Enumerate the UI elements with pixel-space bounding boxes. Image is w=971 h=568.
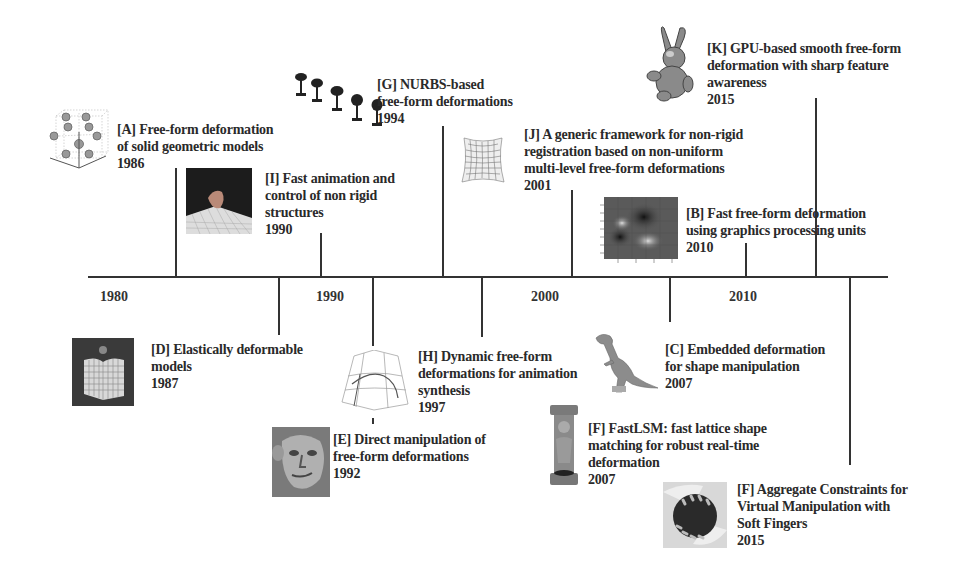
entry-C-title-line-1: [C] Embedded deformation xyxy=(665,341,825,358)
deformed-cube-on-grid-icon xyxy=(186,168,252,234)
soft-fingers-grasp-icon xyxy=(663,482,727,548)
entry-D: [D] Elastically deformable models 1987 xyxy=(151,341,303,392)
connector-C xyxy=(669,277,671,322)
entry-F1: [F] FastLSM: fast lattice shape matching… xyxy=(588,420,767,488)
connector-I xyxy=(320,233,322,277)
entry-E-year: 1992 xyxy=(333,465,486,482)
entry-D-title-line-2: models xyxy=(151,358,303,375)
entry-D-title-line-1: [D] Elastically deformable xyxy=(151,341,303,358)
face-sculpture-icon xyxy=(272,427,330,497)
entry-A-year: 1986 xyxy=(117,155,273,172)
entry-B-year: 2010 xyxy=(686,239,866,256)
bunny-icon xyxy=(644,24,700,104)
connector-F2 xyxy=(849,277,851,465)
wireframe-lattice-icon xyxy=(340,350,410,412)
statue-icon xyxy=(548,405,580,487)
entry-K-title-line-3: awareness xyxy=(707,74,901,91)
entry-I-title-line-2: control of non rigid xyxy=(265,187,395,204)
heatmap-icon xyxy=(598,195,680,267)
entry-J-title-line-2: registration based on non-uniform xyxy=(524,143,743,160)
entry-J-title-line-3: multi-level free-form deformations xyxy=(524,160,743,177)
connector-D xyxy=(278,277,280,335)
axis-label-2010: 2010 xyxy=(729,289,757,305)
entry-F2-title-line-1: [F] Aggregate Constraints for xyxy=(737,481,908,498)
entry-A-title-line-1: [A] Free-form deformation xyxy=(117,121,273,138)
entry-F1-title-line-3: deformation xyxy=(588,454,767,471)
axis-label-1980: 1980 xyxy=(100,289,128,305)
axis-label-1990: 1990 xyxy=(316,289,344,305)
entry-A: [A] Free-form deformation of solid geome… xyxy=(117,121,273,172)
entry-K: [K] GPU-based smooth free-form deformati… xyxy=(707,40,901,108)
elastic-cube-icon xyxy=(72,338,134,406)
entry-A-title-line-2: of solid geometric models xyxy=(117,138,273,155)
entry-G-title-line-1: [G] NURBS-based xyxy=(377,76,513,93)
entry-F1-title-line-2: matching for robust real-time xyxy=(588,437,767,454)
entry-K-title-line-2: deformation with sharp feature xyxy=(707,57,901,74)
entry-C-year: 2007 xyxy=(665,375,825,392)
lattice-spheres-icon xyxy=(44,108,114,180)
connector-E xyxy=(372,277,374,346)
entry-H-year: 1997 xyxy=(418,399,577,416)
entry-G: [G] NURBS-based free-form deformations 1… xyxy=(377,76,513,127)
entry-C-title-line-2: for shape manipulation xyxy=(665,358,825,375)
entry-I-title-line-3: structures xyxy=(265,204,395,221)
entry-K-year: 2015 xyxy=(707,91,901,108)
connector-E-lower xyxy=(372,418,374,424)
entry-I-year: 1990 xyxy=(265,221,395,238)
entry-F2-title-line-3: Soft Fingers xyxy=(737,515,908,532)
connector-H xyxy=(481,277,483,337)
dinosaur-icon xyxy=(594,330,660,394)
entry-H: [H] Dynamic free-form deformations for a… xyxy=(418,348,577,416)
connector-J xyxy=(571,190,573,277)
timeline-axis xyxy=(88,276,888,278)
entry-G-year: 1994 xyxy=(377,110,513,127)
entry-I-title-line-1: [I] Fast animation and xyxy=(265,170,395,187)
entry-B-title-line-2: using graphics processing units xyxy=(686,222,866,239)
entry-J-year: 2001 xyxy=(524,177,743,194)
entry-H-title-line-2: deformations for animation xyxy=(418,365,577,382)
entry-I: [I] Fast animation and control of non ri… xyxy=(265,170,395,238)
entry-E: [E] Direct manipulation of free-form def… xyxy=(333,431,486,482)
entry-F1-title-line-1: [F] FastLSM: fast lattice shape xyxy=(588,420,767,437)
goblets-icon xyxy=(292,72,388,132)
entry-E-title-line-2: free-form deformations xyxy=(333,448,486,465)
connector-G xyxy=(442,126,444,277)
entry-B-title-line-1: [B] Fast free-form deformation xyxy=(686,205,866,222)
entry-J: [J] A generic framework for non-rigid re… xyxy=(524,126,743,194)
entry-F2-year: 2015 xyxy=(737,532,908,549)
entry-D-year: 1987 xyxy=(151,375,303,392)
entry-K-title-line-1: [K] GPU-based smooth free-form xyxy=(707,40,901,57)
axis-label-2000: 2000 xyxy=(531,289,559,305)
entry-G-title-line-2: free-form deformations xyxy=(377,93,513,110)
entry-F2: [F] Aggregate Constraints for Virtual Ma… xyxy=(737,481,908,549)
entry-H-title-line-3: synthesis xyxy=(418,382,577,399)
entry-F2-title-line-2: Virtual Manipulation with xyxy=(737,498,908,515)
entry-C: [C] Embedded deformation for shape manip… xyxy=(665,341,825,392)
entry-E-title-line-1: [E] Direct manipulation of xyxy=(333,431,486,448)
entry-H-title-line-1: [H] Dynamic free-form xyxy=(418,348,577,365)
entry-B: [B] Fast free-form deformation using gra… xyxy=(686,205,866,256)
entry-J-title-line-1: [J] A generic framework for non-rigid xyxy=(524,126,743,143)
warped-grid-icon xyxy=(458,134,508,186)
connector-A xyxy=(175,168,177,277)
